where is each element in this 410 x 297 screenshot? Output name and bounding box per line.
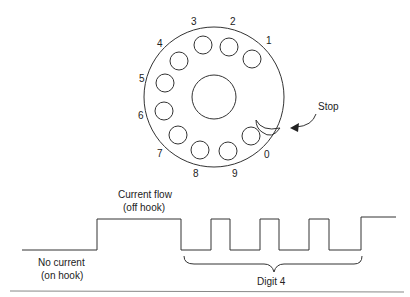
- digit-3: 3: [191, 16, 197, 27]
- digit-brace: [184, 256, 362, 272]
- on-hook-label-line2: (on hook): [41, 270, 83, 281]
- stop-label: Stop: [318, 101, 339, 112]
- digit-4: 4: [157, 38, 163, 49]
- digit-8: 8: [193, 168, 199, 179]
- pulse-waveform: [22, 217, 396, 250]
- digit-1: 1: [266, 35, 272, 46]
- arrow-head-icon: [290, 123, 299, 132]
- digit-6: 6: [138, 110, 144, 121]
- rotary-dial-diagram: 1 2 3 4 5 6 7 8 9 0 Stop Current flow (o…: [0, 0, 410, 297]
- digit-label: Digit 4: [257, 276, 286, 287]
- bottom-divider: [10, 291, 404, 292]
- digit-7: 7: [157, 148, 163, 159]
- finger-holes: [155, 36, 261, 160]
- on-hook-label-line1: No current: [38, 257, 85, 268]
- rotary-dial: 1 2 3 4 5 6 7 8 9 0: [138, 16, 284, 179]
- stop-annotation: Stop: [290, 101, 339, 132]
- digit-5: 5: [139, 73, 145, 84]
- digit-2: 2: [230, 16, 236, 27]
- off-hook-label-line1: Current flow: [118, 189, 173, 200]
- dial-center: [192, 75, 236, 119]
- digit-9: 9: [232, 168, 238, 179]
- stop-arrow-line: [296, 114, 316, 127]
- dial-outer-ring: [144, 27, 284, 167]
- off-hook-label-line2: (off hook): [123, 202, 165, 213]
- digit-0: 0: [264, 149, 270, 160]
